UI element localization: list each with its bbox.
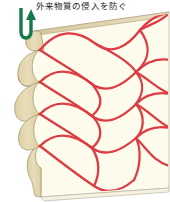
figure-canvas — [0, 0, 170, 202]
tight-junction-figure: 外来物質の侵入を防ぐ — [0, 0, 170, 202]
